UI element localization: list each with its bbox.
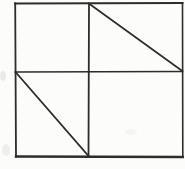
square-top-edge <box>15 3 183 4</box>
scan-smudge-lower-right <box>125 129 137 135</box>
horizontal-midline <box>15 72 182 73</box>
vertical-midline <box>89 4 90 157</box>
scan-smudge-left-margin <box>0 71 6 81</box>
diagonal-bottom-left <box>16 73 89 157</box>
square-diagram-svg <box>0 0 185 169</box>
scan-smudge-bottom-left <box>2 144 10 156</box>
figure-canvas <box>0 0 185 169</box>
square-left-edge <box>15 4 16 157</box>
square-bottom-edge <box>16 157 183 158</box>
diagonal-top-right <box>90 4 183 71</box>
